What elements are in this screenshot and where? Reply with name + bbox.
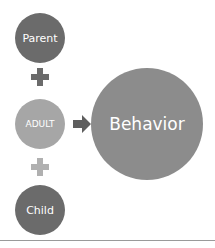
child-node: Child [15,185,65,235]
adult-node: ADULT [15,99,65,149]
behavior-label: Behavior [109,114,185,134]
child-label: Child [26,204,54,217]
adult-label: ADULT [26,119,55,129]
parent-label: Parent [22,32,57,45]
plus-icon-top [31,68,49,86]
behavior-node: Behavior [91,68,203,180]
plus-icon-bottom [31,158,49,176]
arrow-right-icon [73,115,91,133]
divider-line [0,240,215,241]
parent-node: Parent [15,13,65,63]
